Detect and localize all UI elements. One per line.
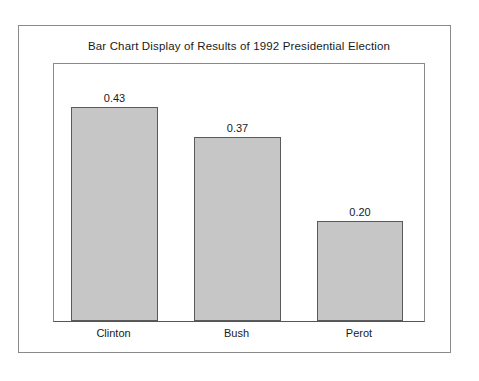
bar-perot: 0.20 (317, 221, 403, 321)
bar-value-label-perot: 0.20 (349, 206, 370, 219)
chart-page: Bar Chart Display of Results of 1992 Pre… (0, 0, 479, 381)
category-label-perot: Perot (316, 327, 402, 340)
category-label-bush: Bush (193, 327, 280, 340)
bar-bush: 0.37 (194, 137, 281, 321)
plot-area: 0.430.370.20 (54, 64, 424, 321)
bar-clinton: 0.43 (71, 107, 158, 321)
chart-title: Bar Chart Display of Results of 1992 Pre… (53, 39, 425, 53)
category-label-clinton: Clinton (70, 327, 157, 340)
bar-value-label-bush: 0.37 (227, 122, 248, 135)
outer-frame: Bar Chart Display of Results of 1992 Pre… (18, 25, 451, 353)
plot-frame: 0.430.370.20 (53, 63, 425, 322)
bar-value-label-clinton: 0.43 (104, 92, 125, 105)
